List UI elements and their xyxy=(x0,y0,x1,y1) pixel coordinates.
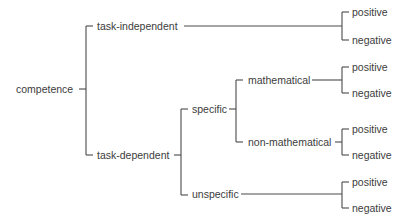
node-non-mathematical: non-mathematical xyxy=(248,136,331,148)
leaf-unspecific-negative: negative xyxy=(352,202,392,214)
node-unspecific: unspecific xyxy=(192,188,239,200)
node-task-dependent: task-dependent xyxy=(97,149,169,161)
leaf-mathematical-positive: positive xyxy=(352,61,388,73)
leaf-task-independent-negative: negative xyxy=(352,34,392,46)
leaf-non-mathematical-positive: positive xyxy=(352,123,388,135)
node-specific: specific xyxy=(192,103,227,115)
node-task-independent: task-independent xyxy=(97,20,178,32)
leaf-task-independent-positive: positive xyxy=(352,6,388,18)
leaf-non-mathematical-negative: negative xyxy=(352,149,392,161)
node-competence: competence xyxy=(16,83,73,95)
node-mathematical: mathematical xyxy=(248,74,310,86)
leaf-mathematical-negative: negative xyxy=(352,87,392,99)
leaf-unspecific-positive: positive xyxy=(352,176,388,188)
